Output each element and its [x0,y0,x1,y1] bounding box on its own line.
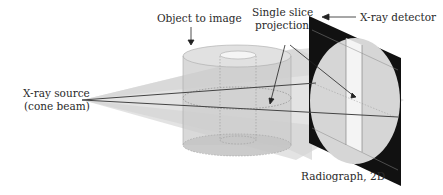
xray-diagram: Object to image Single slice projection … [0,0,443,195]
inner-hole-top [220,51,256,59]
radiograph-label: Radiograph, 2D [301,170,385,182]
object-cylinder [183,45,291,156]
detector-label: X-ray detector [360,11,437,23]
slice-label-1: Single slice [252,6,313,18]
source-label-1: X-ray source [23,87,90,99]
source-label-2: (cone beam) [24,100,90,112]
xray-detector [309,16,401,186]
object-label: Object to image [157,12,242,24]
slice-label-2: projection [255,19,309,31]
